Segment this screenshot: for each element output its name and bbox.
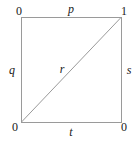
corner-label-top-left: 0 [13, 5, 25, 17]
edge-label-q: q [6, 64, 18, 76]
corner-label-bottom-left: 0 [9, 121, 21, 133]
corner-label-bottom-right: 0 [118, 121, 130, 133]
edge-label-s: s [123, 64, 135, 76]
corner-label-top-right: 1 [118, 5, 130, 17]
edge-label-p: p [65, 3, 77, 15]
edge-label-t: t [65, 126, 77, 138]
edge-label-r: r [56, 63, 68, 75]
geometry-diagram: 0 1 0 0 p q s t r [0, 0, 138, 142]
